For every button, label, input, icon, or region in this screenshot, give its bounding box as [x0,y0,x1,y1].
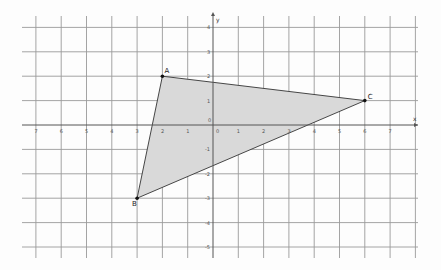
y-tick-label: -1 [205,146,210,152]
x-tick-label: 5 [338,128,341,134]
y-tick-label: -4 [205,220,210,226]
x-tick-label: 3 [136,128,139,134]
x-tick-label: 4 [110,128,113,134]
x-axis-arrow-icon [414,123,418,127]
y-axis-label: y [216,16,220,24]
x-axis-label: x [413,115,417,122]
x-tick-label: 2 [161,128,164,134]
y-tick-label: -2 [205,171,210,177]
point-b-label: B [132,200,137,208]
x-tick-label: 6 [363,128,366,134]
y-tick-label: -5 [205,244,210,250]
x-tick-label: 3 [287,128,290,134]
triangle-abc [137,76,365,198]
y-tick-label: 1 [207,98,210,104]
x-tick-label: 6 [60,128,63,134]
point-c-marker [363,99,367,103]
y-tick-label: 2 [207,73,210,79]
x-tick-label: 4 [313,128,316,134]
origin-label: 0 [208,117,211,123]
y-tick-label: 4 [207,24,210,30]
triangle-shape [137,76,365,198]
origin-label: 0 [216,128,219,134]
point-c-label: C [368,93,373,101]
x-tick-label: 2 [262,128,265,134]
plot-canvas: xy 76543211234567004321-1-2-3-4-5 ABC [0,0,441,270]
y-axis-arrow-icon [211,12,215,16]
point-a-label: A [164,67,169,75]
x-tick-label: 7 [389,128,392,134]
x-tick-label: 1 [237,128,240,134]
x-tick-label: 5 [85,128,88,134]
y-tick-label: 3 [207,49,210,55]
x-tick-label: 7 [34,128,37,134]
y-tick-label: -3 [205,195,210,201]
coordinate-plane: xy 76543211234567004321-1-2-3-4-5 ABC [0,0,441,270]
x-tick-label: 1 [186,128,189,134]
